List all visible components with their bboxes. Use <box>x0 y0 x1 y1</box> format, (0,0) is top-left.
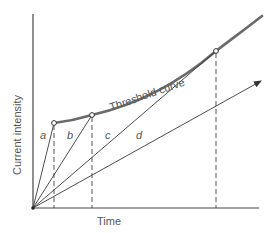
line-label-a: a <box>40 129 46 141</box>
line-label-c: c <box>105 129 111 141</box>
curve-label: Threshold curve <box>108 76 186 113</box>
threshold-point-c <box>214 49 219 54</box>
origin-point <box>31 206 35 210</box>
x-axis-label: Time <box>97 215 121 227</box>
threshold-point-b <box>90 113 95 118</box>
strength-duration-diagram: Threshold curve a b c d Time Current int… <box>0 0 274 233</box>
line-label-b: b <box>67 129 73 141</box>
y-axis-label: Current intensity <box>11 94 23 175</box>
threshold-point-a <box>52 121 57 126</box>
threshold-curve <box>54 16 262 123</box>
ramp-line-c <box>33 51 216 208</box>
line-label-d: d <box>136 129 143 141</box>
diagram-svg: Threshold curve a b c d Time Current int… <box>0 0 274 233</box>
